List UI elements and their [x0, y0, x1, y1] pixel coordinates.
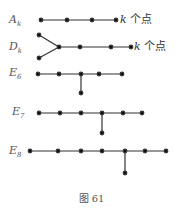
- figure-caption: 图 61: [0, 190, 183, 205]
- annotation-a-k: k 个点: [120, 14, 152, 25]
- label-e8: E8: [9, 145, 22, 161]
- dynkin-diagrams: [0, 0, 183, 209]
- label-d-k: Dk: [9, 41, 22, 57]
- label-e6: E6: [9, 67, 22, 83]
- label-a-k: Ak: [9, 14, 21, 30]
- diagram-e7: [37, 111, 144, 135]
- diagram-d-k: [37, 33, 133, 60]
- diagram-a-k: [39, 18, 118, 22]
- diagram-e8: [28, 149, 168, 175]
- annotation-d-k: k 个点: [134, 41, 166, 52]
- diagram-e6: [36, 72, 124, 95]
- label-e7: E7: [12, 106, 25, 122]
